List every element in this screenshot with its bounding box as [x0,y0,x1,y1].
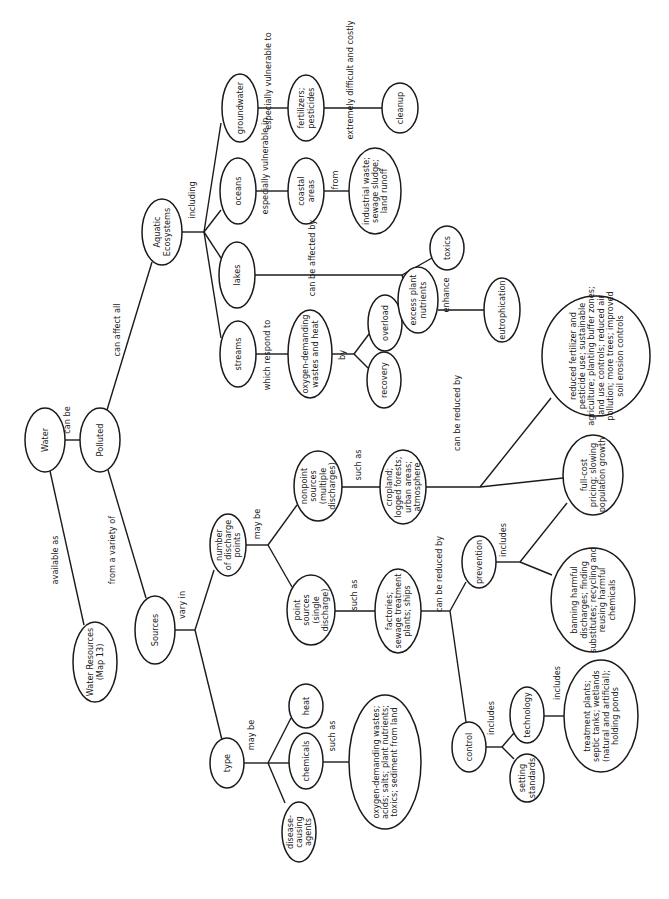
link-label: such as [327,720,337,751]
node-point: pointsources(singledischarge) [287,575,335,645]
link-label: can affect all [112,304,122,357]
node-num-discharge: numberof dischargepoints [210,514,246,576]
node-label: recovery [379,362,389,398]
node-fertilizers: fertilizers;pesticides [288,75,324,141]
link-label: includes [552,666,562,700]
node-label: nonpointsources(multipledischarges) [299,462,337,509]
node-groundwater: groundwater [222,74,258,142]
node-oxygen-acids: oxygen-demanding wastes;acids; salts; pl… [349,695,421,829]
node-disease: disease-causingagents [282,802,316,862]
node-label: oxygen-demandingwastes and heat [300,314,319,393]
node-label: control [464,733,474,761]
node-label: overload [380,305,390,341]
link-label: which respond to [262,320,272,390]
node-label: Water [40,427,50,452]
link-label: by [337,350,347,360]
node-technology: technology [510,687,544,743]
node-setting-standards: settingstandards [510,754,544,802]
link-label: may be [246,720,256,751]
link-label: extremely difficult and costly [345,20,355,139]
node-recovery: recovery [367,352,401,408]
node-oxygen-heat: oxygen-demandingwastes and heat [288,310,332,398]
link-label: includes [486,701,496,735]
node-eutrophication: eutrophication [484,278,520,342]
node-control: control [452,722,486,772]
node-label: streams [233,338,243,371]
node-label: coastalareas [296,176,315,205]
node-label: groundwater [235,81,245,134]
node-banning: banning harmfuldischarges; findingsubsti… [551,547,635,653]
link-label: including [187,181,197,218]
link-label: can be affected by [307,220,317,297]
link-label: can be reduced by [434,536,444,612]
node-coastal: coastalareas [288,158,324,224]
link-label: can be [62,406,72,434]
node-label: technology [522,692,532,738]
node-label: fertilizers;pesticides [296,87,315,128]
node-label: Sources [150,614,160,646]
node-chemicals: chemicals [289,733,323,789]
link-label: from a variety of [107,515,117,584]
link-label: vary in [177,591,187,619]
node-type: type [210,738,244,788]
node-nonpoint: nonpointsources(multipledischarges) [294,451,342,521]
node-label: oxygen-demanding wastes;acids; salts; pl… [371,705,400,819]
node-excess-nutrients: excess plantnutrients [398,267,438,333]
link-label: from [330,170,340,189]
node-oceans: oceans [220,158,256,224]
link-label: such as [349,579,359,610]
node-streams: streams [220,321,256,387]
node-factories: factories;sewage treatmentplants; ships [375,569,421,653]
node-cropland: cropland;logged forests;urban areas;atmo… [380,450,426,524]
concept-map-svg: WaterPollutedWater Resources(Map 13)Sour… [0,0,669,899]
link-label: enhance [441,277,451,312]
node-overload: overload [368,295,402,351]
node-treatment-plants: treatment plants;septic tanks; wetlands(… [564,660,638,772]
node-label: type [222,754,232,772]
node-cleanup: cleanup [382,83,418,133]
concept-nodes: WaterPollutedWater Resources(Map 13)Sour… [25,74,650,862]
node-label: chemicals [301,740,311,781]
node-lakes: lakes [219,242,255,308]
node-label: cleanup [395,92,405,124]
node-label: lakes [232,264,242,285]
node-industrial: industrial waste;sewage sludge;land runo… [349,148,401,234]
node-label: prevention [474,540,484,584]
node-label: heat [301,696,311,715]
link-label: especially vulnerable to [263,32,273,130]
node-water-resources: Water Resources(Map 13) [73,622,117,702]
node-water: Water [25,408,65,472]
node-fullcost: full-costpricing; slowingpopulation grow… [563,435,623,515]
link-label: available as [50,536,60,585]
node-label: oceans [233,176,243,205]
node-label: toxics [442,236,452,260]
link-label: can be reduced by [452,375,462,451]
node-label: disease-causingagents [285,815,314,849]
link-label: may be [252,509,262,540]
node-sources: Sources [135,596,175,664]
node-prevention: prevention [462,536,496,588]
node-reduced: reduced fertilizer andpesticide use; sus… [542,286,650,426]
concept-map: WaterPollutedWater Resources(Map 13)Sour… [0,0,669,899]
node-polluted: Polluted [80,408,120,472]
link-label: such as [353,449,363,480]
node-aquatic: AquaticEcosystems [142,199,182,265]
link-label: especially vulnerable in [260,118,270,215]
link-label: includes [498,523,508,557]
node-toxics: toxics [430,226,464,270]
node-heat: heat [289,684,323,728]
node-label: eutrophication [497,280,507,340]
node-label: Polluted [95,424,105,457]
